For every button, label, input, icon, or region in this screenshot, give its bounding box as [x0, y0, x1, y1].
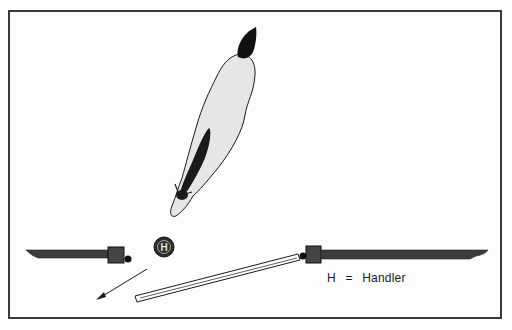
handler-label: H	[160, 242, 167, 253]
legend: H = Handler	[327, 271, 406, 285]
swinging-gate	[135, 254, 300, 302]
right-latch	[300, 253, 307, 260]
right-rail	[321, 250, 488, 259]
right-gate	[300, 246, 489, 263]
right-post	[306, 246, 321, 263]
diagram-canvas: H	[0, 0, 512, 330]
left-rail	[26, 250, 108, 258]
legend-symbol: H	[327, 271, 336, 285]
legend-meaning: Handler	[362, 271, 405, 285]
left-latch	[125, 256, 132, 263]
left-post	[108, 247, 124, 263]
horse-tail	[237, 27, 256, 58]
left-gate	[26, 247, 132, 263]
horse-figure	[171, 27, 257, 216]
handler-symbol: H	[154, 237, 174, 257]
legend-equals: =	[345, 271, 352, 285]
